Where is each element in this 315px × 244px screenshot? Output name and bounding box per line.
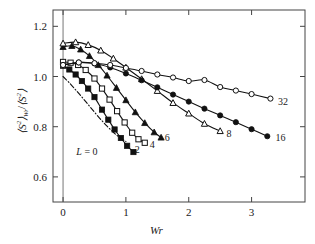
data-point-marker — [136, 137, 141, 142]
data-point-marker — [139, 68, 144, 73]
data-point-marker — [92, 76, 97, 81]
data-point-marker — [92, 61, 97, 66]
y-axis-label: ⟨S2⟩Wr/⟨S2⟩ — [15, 51, 30, 171]
data-point-marker — [79, 78, 84, 83]
y-tick-label: 0.8 — [33, 121, 47, 133]
data-point-marker — [123, 71, 128, 76]
data-point-marker — [112, 127, 117, 132]
series-end-label: 2 — [135, 144, 140, 155]
data-point-marker — [98, 47, 104, 53]
data-point-marker — [155, 85, 160, 90]
data-point-marker — [170, 100, 176, 106]
data-point-marker — [186, 99, 191, 104]
y-tick-label: 1.2 — [33, 20, 47, 32]
x-tick-label: 0 — [60, 206, 66, 218]
chart-plot-area: 01231.21.00.80.6L = 024681632 — [0, 0, 315, 244]
plot-frame — [53, 10, 305, 202]
figure-container: 01231.21.00.80.6L = 024681632 ⟨S2⟩Wr/⟨S2… — [0, 0, 315, 244]
series-end-label: L = 0 — [75, 146, 97, 157]
data-point-marker — [110, 55, 116, 61]
x-tick-label: 2 — [186, 206, 192, 218]
data-point-marker — [122, 120, 127, 125]
y-tick-label: 0.6 — [33, 171, 47, 183]
data-point-marker — [125, 143, 130, 148]
data-point-marker — [218, 84, 223, 89]
data-point-marker — [139, 78, 144, 83]
data-point-marker — [202, 106, 207, 111]
data-point-marker — [114, 109, 119, 114]
series-end-label: 8 — [226, 128, 231, 139]
data-point-marker — [233, 120, 238, 125]
data-point-marker — [130, 130, 135, 135]
series-end-label: 16 — [275, 132, 285, 143]
data-point-marker — [158, 134, 164, 140]
data-point-marker — [99, 107, 104, 112]
x-tick-label: 1 — [123, 206, 129, 218]
data-point-marker — [73, 72, 78, 77]
data-point-marker — [118, 135, 123, 140]
data-point-marker — [83, 67, 88, 72]
data-point-marker — [170, 92, 175, 97]
x-axis-label: Wr — [150, 224, 163, 236]
data-point-marker — [67, 67, 72, 72]
x-tick-label: 3 — [249, 206, 255, 218]
data-point-marker — [201, 120, 207, 126]
series-end-label: 32 — [278, 96, 288, 107]
data-point-marker — [76, 60, 81, 65]
data-point-marker — [186, 110, 192, 116]
data-point-marker — [268, 96, 273, 101]
data-point-marker — [186, 78, 191, 83]
series-label-rest: = 0 — [82, 146, 98, 157]
data-point-marker — [99, 86, 104, 91]
data-point-marker — [92, 94, 97, 99]
y-tick-label: 1.0 — [33, 71, 47, 83]
data-point-marker — [60, 62, 65, 67]
data-point-marker — [249, 91, 254, 96]
series-end-label: 4 — [150, 139, 155, 150]
data-point-marker — [106, 117, 111, 122]
data-point-marker — [142, 140, 147, 145]
data-point-marker — [108, 62, 113, 67]
data-point-marker — [86, 86, 91, 91]
data-point-marker — [217, 128, 223, 134]
data-point-marker — [170, 75, 175, 80]
data-point-marker — [155, 72, 160, 77]
data-point-marker — [233, 88, 238, 93]
data-point-marker — [249, 127, 254, 132]
series-end-label: 6 — [165, 132, 170, 143]
data-point-marker — [107, 97, 112, 102]
data-point-marker — [202, 77, 207, 82]
data-point-marker — [123, 65, 128, 70]
data-point-marker — [218, 113, 223, 118]
series-2 — [60, 63, 136, 155]
data-point-marker — [265, 134, 270, 139]
data-point-marker — [78, 46, 84, 52]
